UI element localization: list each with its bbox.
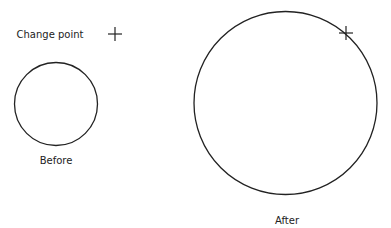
after-caption: After	[275, 215, 299, 226]
after-circle	[194, 12, 377, 195]
change-point-plus-icon	[339, 26, 353, 40]
legend-plus-icon	[108, 27, 122, 41]
legend-label: Change point	[17, 29, 84, 40]
before-circle	[15, 63, 98, 146]
before-caption: Before	[40, 155, 73, 166]
